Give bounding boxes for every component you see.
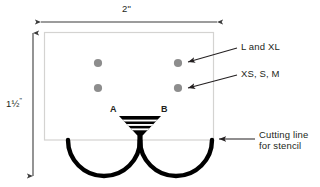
point-b-label: B <box>161 104 168 114</box>
cutting-line-arcs <box>68 140 212 176</box>
cut-arc-right <box>140 140 212 176</box>
height-dimension-label: 1½" <box>6 97 22 110</box>
hole-top-left <box>94 59 102 67</box>
hole-bottom-left <box>94 84 102 92</box>
point-a-label: A <box>110 104 117 114</box>
callout-large-sizes: L and XL <box>241 42 280 53</box>
diagram-graphics <box>0 0 320 187</box>
callout-cutting-line-row2: for stencil <box>259 141 308 152</box>
callout-cutting-line: Cutting line for stencil <box>259 130 308 151</box>
hole-bottom-right <box>174 84 182 92</box>
width-dimension-label: 2" <box>122 4 131 15</box>
hole-top-right <box>174 59 182 67</box>
callout-small-sizes: XS, S, M <box>241 69 280 80</box>
diagram-canvas: 2" 1½" A B L and XL XS, S, M Cutting lin… <box>0 0 320 187</box>
height-value-unit: " <box>19 97 22 104</box>
cut-arc-left <box>68 140 140 176</box>
